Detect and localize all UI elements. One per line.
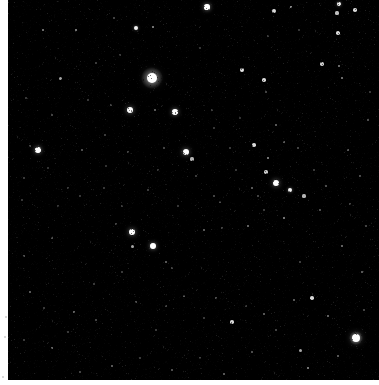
star-point [262,78,266,82]
star-point [79,371,81,373]
star-point [43,307,45,309]
star-point [298,29,300,31]
matte-edge-pixel [4,336,6,338]
star-point [341,77,344,80]
star-field-viewer [0,0,379,385]
star-point [157,169,159,171]
star-point [273,180,279,186]
star-point [341,245,344,248]
star-point [257,195,259,197]
star-point [347,149,349,151]
star-point [51,114,53,116]
star-point [23,339,25,341]
star-point [363,309,365,311]
star-point [240,68,244,72]
star-point [47,167,49,169]
star-point [352,334,360,342]
star-point [104,134,106,136]
star-point [115,223,117,225]
star-point [165,261,167,263]
star-point [327,315,330,318]
star-point [204,4,209,9]
star-point [171,267,173,269]
star-point [147,73,157,83]
star-point [127,151,129,153]
star-point [172,109,177,114]
star-point [251,351,253,353]
star-point [23,177,25,179]
star-point [307,367,310,370]
star-point [51,237,53,239]
star-point [95,62,97,64]
star-point [95,319,97,321]
star-point [35,147,41,153]
star-point [177,205,179,207]
sky-canvas [8,0,379,380]
star-point [349,203,351,205]
star-halo [141,67,163,89]
star-point [293,299,295,301]
star-point [154,109,156,111]
star-point [139,357,141,359]
star-point [252,143,256,147]
star-point [103,187,105,189]
star-point [190,157,193,160]
star-point [267,35,269,37]
star-point [336,31,340,35]
star-point [275,329,277,331]
star-point [155,329,157,331]
star-point [320,62,323,65]
left-matte-strip [0,0,8,385]
star-point [319,209,321,211]
star-point [367,119,369,121]
star-point [195,175,197,177]
star-point [290,6,293,9]
star-point [147,189,149,191]
star-point [203,317,205,319]
star-point [361,271,363,273]
star-point [337,355,339,357]
star-point [59,77,62,80]
star-point [229,147,231,149]
star-point [353,8,357,12]
star-point [29,145,31,147]
star-point [263,313,265,315]
star-point [359,175,361,177]
star-point [121,205,123,207]
star-point [21,199,23,201]
star-point [129,229,135,235]
star-point [313,169,315,171]
star-point [111,365,113,367]
star-point [223,373,225,375]
star-point [57,205,59,207]
star-point [245,305,247,307]
star-point [75,29,77,31]
star-point [230,320,234,324]
star-point [267,157,270,160]
star-point [67,331,69,333]
star-point [338,65,341,68]
star-point [211,109,213,111]
star-point [337,2,341,6]
matte-edge-pixel [5,316,7,318]
star-point [121,271,123,273]
star-layer [8,0,379,380]
star-point [127,107,133,113]
star-point [183,149,189,155]
star-point [221,227,223,229]
bottom-matte-strip [0,380,379,385]
star-point [272,9,276,13]
matte-edge-pixel [2,376,4,378]
star-point [299,261,301,263]
star-point [42,29,44,31]
star-point [29,291,31,293]
star-point [67,187,69,189]
star-point [25,97,27,99]
star-point [81,149,83,151]
star-point [283,141,285,143]
star-point [325,185,327,187]
star-point [23,255,25,257]
star-point [199,47,201,49]
star-point [302,194,305,197]
star-point [110,104,112,106]
